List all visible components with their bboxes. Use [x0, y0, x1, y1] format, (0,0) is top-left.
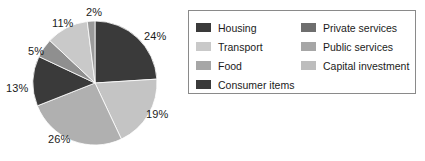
- pie-slice-percent-label: 5%: [28, 45, 44, 57]
- legend-item: Housing: [196, 18, 294, 37]
- legend-swatch-icon: [196, 23, 211, 32]
- legend-item: Food: [196, 56, 294, 75]
- legend-item-label: Transport: [218, 41, 263, 53]
- pie-slice-percent-label: 19%: [146, 108, 168, 120]
- legend-swatch-icon: [301, 42, 316, 51]
- legend-swatch-icon: [196, 61, 211, 70]
- pie-slice-percent-label: 2%: [86, 6, 102, 18]
- legend-item: Capital investment: [301, 56, 409, 75]
- legend-item: Transport: [196, 37, 294, 56]
- legend-swatch-icon: [301, 61, 316, 70]
- legend-item-label: Housing: [218, 22, 257, 34]
- legend-column-right: Private servicesPublic servicesCapital i…: [301, 18, 409, 75]
- pie-chart-svg: [0, 0, 190, 161]
- legend-swatch-icon: [196, 42, 211, 51]
- chart-legend: HousingTransportFoodConsumer items Priva…: [188, 10, 416, 94]
- pie-chart-area: 24%19%26%13%5%11%2%: [0, 0, 190, 161]
- legend-item: Consumer items: [196, 75, 294, 94]
- legend-item: Private services: [301, 18, 409, 37]
- legend-item-label: Food: [218, 60, 242, 72]
- legend-item-label: Consumer items: [218, 79, 294, 91]
- legend-swatch-icon: [301, 23, 316, 32]
- pie-chart-figure: 24%19%26%13%5%11%2% HousingTransportFood…: [0, 0, 425, 161]
- legend-item-label: Private services: [323, 22, 397, 34]
- legend-swatch-icon: [196, 80, 211, 89]
- pie-slice-percent-label: 26%: [48, 133, 70, 145]
- legend-column-left: HousingTransportFoodConsumer items: [196, 18, 294, 94]
- legend-item: Public services: [301, 37, 409, 56]
- pie-slice-group: [33, 21, 157, 145]
- legend-item-label: Public services: [323, 41, 393, 53]
- pie-slice-percent-label: 24%: [144, 30, 166, 42]
- legend-item-label: Capital investment: [323, 60, 409, 72]
- pie-slice-percent-label: 11%: [52, 17, 74, 29]
- pie-slice-percent-label: 13%: [6, 82, 28, 94]
